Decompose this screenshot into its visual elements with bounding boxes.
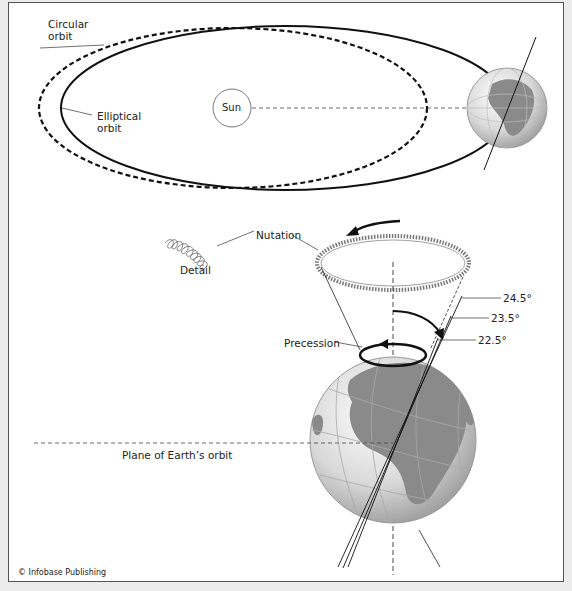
cone-lower-line	[419, 530, 440, 567]
circular-orbit-leader	[40, 45, 104, 48]
sun-label: Sun	[222, 102, 241, 114]
credit-label: © Infobase Publishing	[18, 567, 106, 579]
large-earth-globe-icon	[310, 357, 476, 523]
circular-orbit-label: Circular orbit	[48, 18, 88, 42]
detail-label: Detail	[180, 264, 211, 276]
elliptical-orbit-leader	[62, 108, 92, 115]
angle-label-24-5: 24.5°	[503, 292, 532, 304]
angle-label-22-5: 22.5°	[478, 334, 507, 346]
precession-label: Precession	[284, 337, 340, 349]
orbit-plane-label: Plane of Earth’s orbit	[122, 449, 232, 461]
small-earth-globe-icon	[467, 68, 547, 148]
cone-line-right	[430, 277, 463, 350]
elliptical-orbit-label: Elliptical orbit	[97, 110, 141, 134]
nutation-leader-left	[217, 231, 254, 246]
tilt-arrow-icon	[393, 311, 444, 340]
nutation-direction-arrow-icon	[346, 221, 400, 236]
nutation-label: Nutation	[256, 229, 301, 241]
diagram-canvas	[0, 0, 572, 591]
angle-label-23-5: 23.5°	[491, 312, 520, 324]
